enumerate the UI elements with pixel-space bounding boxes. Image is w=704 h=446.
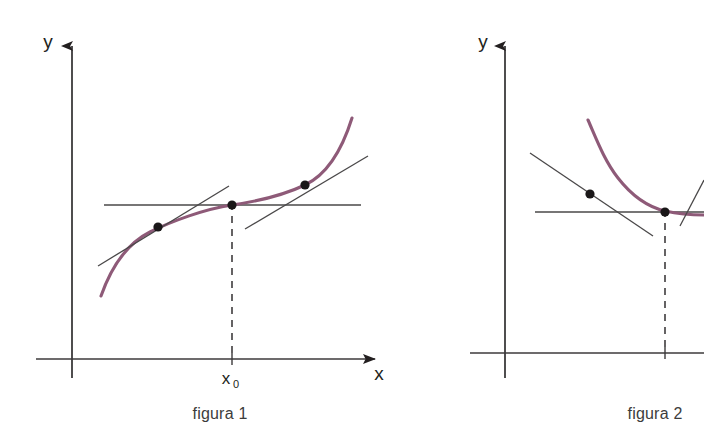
figure-1-caption: figura 1	[193, 405, 248, 422]
figure-1-x-axis-label: x	[374, 363, 384, 384]
figure-2-point-left	[585, 189, 594, 198]
figure-2-tangent-right	[680, 180, 704, 226]
figure-1-curve	[101, 118, 352, 296]
figure-1-group: y x x 0 figura 1	[36, 31, 384, 422]
figure-1-point-right	[300, 180, 309, 189]
figure-1-x0-label-base: x	[222, 369, 231, 388]
figure-2-curve	[588, 120, 704, 215]
figure-1-point-inflection	[227, 200, 236, 209]
figure-1-point-left	[153, 222, 162, 231]
figure-2-point-x0	[660, 207, 669, 216]
figure-2-group: y figura 2	[470, 31, 704, 422]
math-figures-illustration: y x x 0 figura 1 y	[0, 0, 704, 446]
figure-2-y-axis-label: y	[478, 31, 488, 52]
figure-2-caption: figura 2	[628, 405, 683, 422]
figure-1-tangent-left	[98, 186, 229, 266]
figure-1-y-axis-label: y	[43, 31, 53, 52]
figure-1-tangent-right	[245, 156, 368, 229]
figure-1-x0-label-sub: 0	[233, 378, 239, 390]
